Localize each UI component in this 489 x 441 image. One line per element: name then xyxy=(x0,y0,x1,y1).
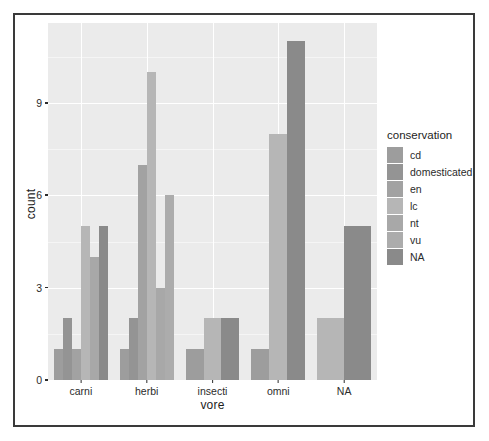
x-axis-tick-mark xyxy=(343,380,345,383)
figure-frame: count vore 0369 carniherbiinsectiomniNA … xyxy=(13,13,475,427)
bar xyxy=(156,288,165,380)
x-axis-tick-mark xyxy=(278,380,280,383)
y-axis-tick-label: 3 xyxy=(36,282,42,294)
legend-item-label: en xyxy=(410,183,422,195)
legend-swatch xyxy=(387,181,403,197)
legend-item-nt[interactable]: nt xyxy=(387,214,473,231)
x-axis-tick-label: insecti xyxy=(198,385,228,397)
x-axis-tick-mark xyxy=(80,380,82,383)
bar xyxy=(165,195,174,380)
legend-item-label: lc xyxy=(410,200,418,212)
legend-swatch xyxy=(387,147,403,163)
bar xyxy=(138,165,147,380)
x-axis-tick: NA xyxy=(337,380,352,397)
legend-swatch xyxy=(387,249,403,265)
x-axis-tick: herbi xyxy=(135,380,158,397)
x-axis-tick-label: carni xyxy=(70,385,93,397)
legend-item-label: vu xyxy=(410,234,421,246)
bar xyxy=(129,318,138,380)
legend-item-domesticated[interactable]: domesticated xyxy=(387,163,473,180)
bar xyxy=(269,134,287,380)
bar xyxy=(90,257,99,380)
legend-item-cd[interactable]: cd xyxy=(387,146,473,163)
x-axis-tick-label: omni xyxy=(267,385,290,397)
x-axis-tick: omni xyxy=(267,380,290,397)
legend-item-en[interactable]: en xyxy=(387,180,473,197)
legend: conservation cddomesticatedenlcntvuNA xyxy=(387,129,473,265)
x-axis-tick-mark xyxy=(146,380,148,383)
legend-item-lc[interactable]: lc xyxy=(387,197,473,214)
bar xyxy=(63,318,72,380)
x-axis-tick-mark xyxy=(212,380,214,383)
legend-item-na[interactable]: NA xyxy=(387,248,473,265)
bar xyxy=(344,226,371,380)
bar xyxy=(221,318,239,380)
bar xyxy=(54,349,63,380)
legend-item-label: NA xyxy=(410,251,425,263)
legend-swatch xyxy=(387,198,403,214)
y-axis-tick-label: 9 xyxy=(36,97,42,109)
bar xyxy=(81,226,90,380)
legend-items: cddomesticatedenlcntvuNA xyxy=(387,146,473,265)
legend-swatch xyxy=(387,164,403,180)
legend-swatch xyxy=(387,232,403,248)
bar xyxy=(120,349,129,380)
legend-item-label: cd xyxy=(410,149,421,161)
bars-layer xyxy=(48,23,377,380)
x-axis-title: vore xyxy=(48,398,377,412)
y-axis-tick-label: 0 xyxy=(36,374,42,386)
bar xyxy=(99,226,108,380)
x-axis-tick-label: herbi xyxy=(135,385,158,397)
x-axis-tick: carni xyxy=(70,380,93,397)
legend-swatch xyxy=(387,215,403,231)
bar xyxy=(287,41,305,380)
legend-title: conservation xyxy=(387,129,473,141)
bar-chart: count vore 0369 carniherbiinsectiomniNA … xyxy=(15,15,473,425)
legend-item-label: domesticated xyxy=(410,166,472,178)
legend-item-vu[interactable]: vu xyxy=(387,231,473,248)
x-axis-tick: insecti xyxy=(198,380,228,397)
legend-item-label: nt xyxy=(410,217,419,229)
bar xyxy=(204,318,222,380)
bar xyxy=(251,349,269,380)
bar xyxy=(72,349,81,380)
y-axis-tick-label: 6 xyxy=(36,189,42,201)
bar xyxy=(317,318,344,380)
x-axis-tick-label: NA xyxy=(337,385,352,397)
bar xyxy=(147,72,156,380)
x-axis: carniherbiinsectiomniNA xyxy=(48,380,377,398)
bar xyxy=(186,349,204,380)
y-axis: 0369 xyxy=(15,15,48,398)
plot-panel xyxy=(48,23,377,380)
